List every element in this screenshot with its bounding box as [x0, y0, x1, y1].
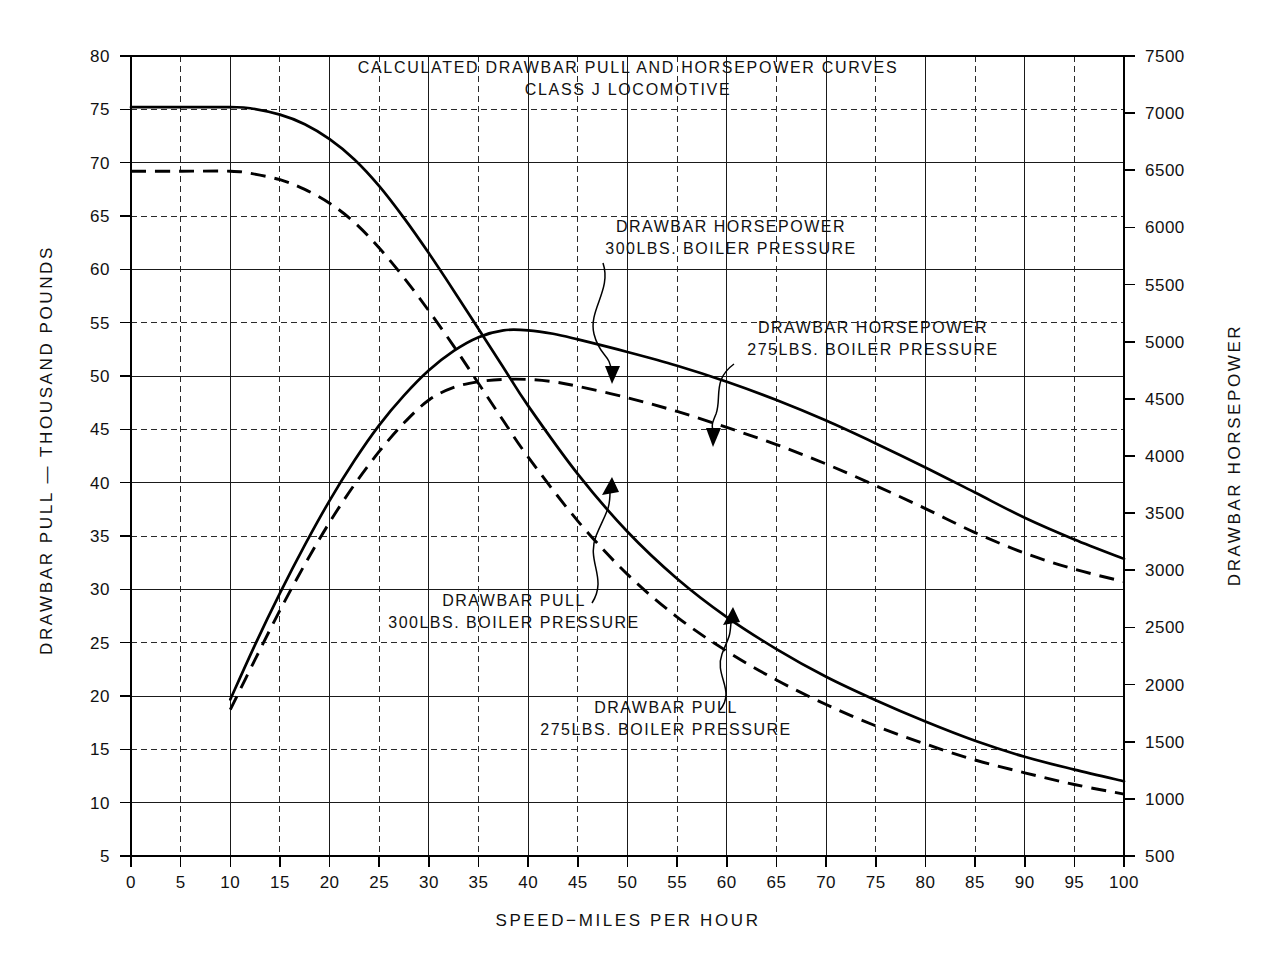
annotation-hp-300-line-1: DRAWBAR HORSEPOWER [616, 218, 846, 235]
left-tick-label: 55 [90, 314, 110, 333]
bottom-tick-label: 25 [369, 873, 389, 892]
bottom-axis-title: SPEED−MILES PER HOUR [495, 911, 760, 930]
bottom-tick-label: 10 [220, 873, 240, 892]
bottom-tick-label: 30 [419, 873, 439, 892]
left-tick-label: 80 [90, 47, 110, 66]
bottom-tick-label: 60 [717, 873, 737, 892]
right-tick-label: 5000 [1145, 333, 1185, 352]
bottom-tick-label: 95 [1064, 873, 1084, 892]
left-tick-label: 15 [90, 740, 110, 759]
bottom-tick-label: 90 [1015, 873, 1035, 892]
annotation-pull-275-line-1: DRAWBAR PULL [594, 699, 738, 716]
right-tick-label: 6500 [1145, 161, 1185, 180]
left-tick-label: 25 [90, 634, 110, 653]
left-tick-label: 70 [90, 154, 110, 173]
bottom-tick-label: 20 [320, 873, 340, 892]
right-tick-label: 4500 [1145, 390, 1185, 409]
bottom-tick-label: 35 [469, 873, 489, 892]
right-tick-label: 6000 [1145, 218, 1185, 237]
right-tick-label: 3500 [1145, 504, 1185, 523]
bottom-tick-label: 45 [568, 873, 588, 892]
right-tick-label: 7000 [1145, 104, 1185, 123]
left-tick-label: 50 [90, 367, 110, 386]
right-tick-label: 1500 [1145, 733, 1185, 752]
left-axis-title: DRAWBAR PULL — THOUSAND POUNDS [37, 245, 56, 655]
left-tick-label: 65 [90, 207, 110, 226]
annotation-hp-300-line-2: 300LBS. BOILER PRESSURE [605, 240, 856, 257]
annotation-pull-300-line-1: DRAWBAR PULL [442, 592, 586, 609]
right-axis-tick-labels: 5001000150020002500300035004000450050005… [1145, 47, 1185, 866]
left-tick-label: 75 [90, 100, 110, 119]
left-tick-label: 20 [90, 687, 110, 706]
figure-background [0, 0, 1266, 977]
left-tick-label: 45 [90, 420, 110, 439]
left-tick-label: 30 [90, 580, 110, 599]
annotation-pull-275-line-2: 275LBS. BOILER PRESSURE [540, 721, 791, 738]
bottom-tick-label: 50 [618, 873, 638, 892]
bottom-tick-label: 85 [965, 873, 985, 892]
annotation-hp-275-line-1: DRAWBAR HORSEPOWER [758, 319, 988, 336]
bottom-tick-label: 65 [766, 873, 786, 892]
right-tick-label: 7500 [1145, 47, 1185, 66]
bottom-tick-label: 75 [866, 873, 886, 892]
drawbar-chart-svg: 5101520253035404550556065707580 50010001… [0, 0, 1266, 977]
left-tick-label: 60 [90, 260, 110, 279]
bottom-tick-label: 70 [816, 873, 836, 892]
bottom-tick-label: 55 [667, 873, 687, 892]
right-tick-label: 2500 [1145, 618, 1185, 637]
chart-title-line-1: CALCULATED DRAWBAR PULL AND HORSEPOWER C… [358, 59, 899, 76]
left-tick-label: 35 [90, 527, 110, 546]
annotation-pull-300-line-2: 300LBS. BOILER PRESSURE [388, 614, 639, 631]
bottom-tick-label: 80 [915, 873, 935, 892]
right-tick-label: 5500 [1145, 276, 1185, 295]
left-tick-label: 10 [90, 794, 110, 813]
chart-figure: 5101520253035404550556065707580 50010001… [0, 0, 1266, 977]
left-tick-label: 5 [100, 847, 110, 866]
right-tick-label: 3000 [1145, 561, 1185, 580]
bottom-tick-label: 0 [126, 873, 136, 892]
right-tick-label: 2000 [1145, 676, 1185, 695]
right-tick-label: 4000 [1145, 447, 1185, 466]
bottom-tick-label: 40 [518, 873, 538, 892]
right-tick-label: 500 [1145, 847, 1175, 866]
left-tick-label: 40 [90, 474, 110, 493]
chart-title-line-2: CLASS J LOCOMOTIVE [525, 81, 732, 98]
bottom-tick-label: 100 [1109, 873, 1139, 892]
bottom-tick-label: 5 [176, 873, 186, 892]
bottom-tick-label: 15 [270, 873, 290, 892]
right-axis-title: DRAWBAR HORSEPOWER [1225, 324, 1244, 586]
annotation-hp-275-line-2: 275LBS. BOILER PRESSURE [747, 341, 998, 358]
right-tick-label: 1000 [1145, 790, 1185, 809]
